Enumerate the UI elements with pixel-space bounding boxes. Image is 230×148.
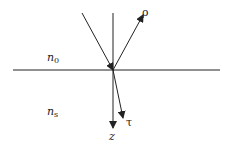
reflected-ray-arrow	[113, 15, 143, 70]
interface-diagram	[0, 0, 230, 148]
z-axis-label: z	[109, 131, 115, 142]
transmitted-ray-label: τ	[126, 117, 132, 128]
transmitted-ray-arrow	[113, 70, 123, 118]
upper-medium-label: n0	[47, 52, 59, 65]
lower-medium-label: ns	[47, 106, 58, 119]
incident-ray-arrow	[82, 13, 113, 70]
lower-medium-subscript: s	[54, 110, 58, 119]
reflected-ray-label: ρ	[142, 7, 148, 18]
upper-medium-subscript: 0	[54, 56, 59, 65]
